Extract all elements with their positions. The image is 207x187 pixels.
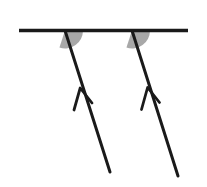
geometry-canvas — [0, 0, 207, 187]
figure-background — [0, 0, 207, 187]
geometry-figure — [0, 0, 207, 187]
